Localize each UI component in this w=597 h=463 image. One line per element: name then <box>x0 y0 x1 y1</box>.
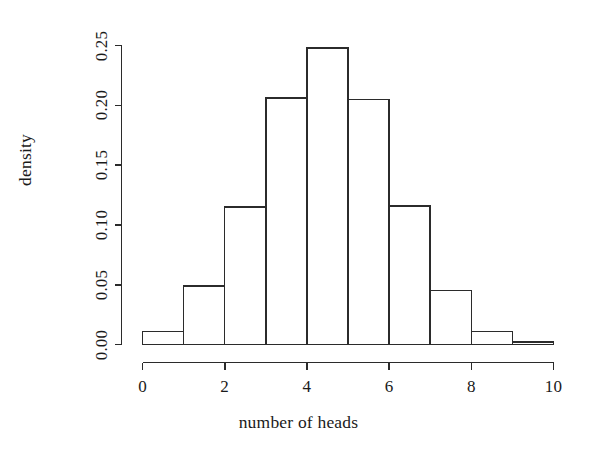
y-axis <box>115 46 122 345</box>
y-tick-label: 0.10 <box>92 202 112 248</box>
histogram-bar <box>307 48 348 345</box>
histogram-bar <box>471 331 512 344</box>
histogram-bar <box>184 286 225 345</box>
x-tick-label: 10 <box>529 377 579 397</box>
x-tick-label: 4 <box>282 377 332 397</box>
histogram-bars <box>143 48 554 345</box>
x-axis-title: number of heads <box>0 412 597 433</box>
x-axis <box>143 363 554 370</box>
x-tick-label: 6 <box>364 377 414 397</box>
x-tick-label: 8 <box>446 377 496 397</box>
y-tick-label: 0.25 <box>92 23 112 69</box>
histogram-bar <box>430 291 471 345</box>
histogram-figure: 0.000.050.100.150.200.25 0246810 density… <box>0 0 597 463</box>
y-tick-label: 0.15 <box>92 142 112 188</box>
histogram-bar <box>225 207 266 345</box>
y-tick-label: 0.20 <box>92 82 112 128</box>
histogram-bar <box>389 206 430 345</box>
histogram-bar <box>348 99 389 344</box>
histogram-bar <box>143 331 184 344</box>
x-tick-label: 0 <box>118 377 168 397</box>
y-tick-label: 0.00 <box>92 322 112 368</box>
y-tick-label: 0.05 <box>92 262 112 308</box>
x-tick-label: 2 <box>200 377 250 397</box>
y-axis-title: density <box>15 105 35 215</box>
histogram-bar <box>266 98 307 344</box>
